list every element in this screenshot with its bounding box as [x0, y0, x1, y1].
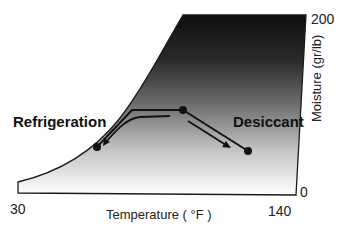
initial-state-point: [179, 106, 187, 114]
y-max-tick: 200: [311, 11, 334, 27]
y-min-tick: 0: [300, 184, 308, 200]
x-axis-title: Temperature ( °F ): [106, 207, 212, 222]
x-max-tick: 140: [268, 203, 291, 219]
desiccant-label: Desiccant: [233, 113, 304, 130]
refrigeration-label: Refrigeration: [13, 113, 106, 130]
x-min-tick: 30: [10, 201, 26, 217]
saturation-region: [18, 15, 306, 195]
y-axis-title: Moisture (gr/lb): [309, 35, 324, 122]
refrigeration-end-point: [93, 143, 101, 151]
desiccant-end-point: [244, 147, 252, 155]
